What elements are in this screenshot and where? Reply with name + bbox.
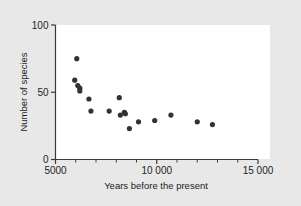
- data-point: [77, 88, 82, 93]
- data-point: [152, 118, 157, 123]
- data-point: [210, 122, 215, 127]
- data-point: [86, 96, 91, 101]
- data-point: [136, 119, 141, 124]
- x-axis-title: Years before the present: [104, 180, 208, 191]
- data-point: [195, 119, 200, 124]
- data-point: [168, 113, 173, 118]
- y-tick-label: 50: [37, 87, 49, 98]
- y-axis-title: Number of species: [18, 52, 29, 131]
- x-tick-label: 5000: [44, 165, 67, 176]
- scatter-plot-figure: 050100 500010 00015 000 Number of specie…: [0, 0, 301, 206]
- y-tick-label: 100: [32, 20, 49, 31]
- data-point: [88, 108, 93, 113]
- y-tick-label: 0: [43, 154, 49, 165]
- data-point: [107, 108, 112, 113]
- chart-canvas: 050100 500010 00015 000 Number of specie…: [0, 0, 301, 206]
- data-point: [117, 95, 122, 100]
- data-point: [74, 56, 79, 61]
- plot-area-background: [55, 25, 270, 159]
- x-tick-label: 10 000: [141, 165, 172, 176]
- data-point: [127, 126, 132, 131]
- data-point: [72, 78, 77, 83]
- data-point: [123, 111, 128, 116]
- x-tick-label: 15 000: [243, 165, 274, 176]
